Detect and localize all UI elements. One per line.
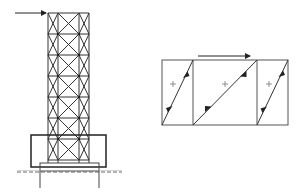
plus-sign-3 [266, 81, 272, 87]
plus-sign-1 [170, 81, 176, 87]
foundation-block [31, 135, 106, 167]
shear-panel-diagram [162, 56, 288, 125]
lattice-tower [15, 13, 89, 163]
plus-sign-2 [222, 81, 228, 87]
tower-bracing [48, 13, 89, 160]
diagram-canvas [0, 0, 302, 196]
